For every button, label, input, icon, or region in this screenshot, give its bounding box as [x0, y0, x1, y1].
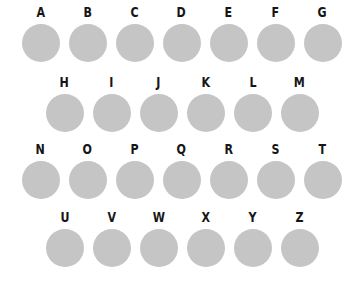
- circle-label-r: R: [224, 143, 232, 156]
- circle-label-s: S: [272, 143, 280, 156]
- circle-shape-j[interactable]: [140, 94, 178, 132]
- circle-shape-r[interactable]: [210, 161, 248, 199]
- circle-label-g: G: [318, 6, 327, 19]
- circle-label-a: A: [36, 6, 44, 19]
- circle-shape-b[interactable]: [69, 24, 107, 62]
- circle-shape-x[interactable]: [187, 229, 225, 267]
- labeled-circle-a[interactable]: A: [17, 6, 64, 62]
- labeled-circle-o[interactable]: O: [64, 143, 111, 199]
- circle-shape-z[interactable]: [281, 229, 319, 267]
- labeled-circle-v[interactable]: V: [88, 211, 135, 267]
- circle-shape-e[interactable]: [210, 24, 248, 62]
- circle-label-n: N: [36, 143, 45, 156]
- labeled-circle-h[interactable]: H: [41, 76, 88, 132]
- circle-shape-a[interactable]: [22, 24, 60, 62]
- circle-shape-p[interactable]: [116, 161, 154, 199]
- circle-label-p: P: [131, 143, 139, 156]
- circle-label-u: U: [60, 211, 69, 224]
- labeled-circle-t[interactable]: T: [299, 143, 346, 199]
- circle-shape-k[interactable]: [187, 94, 225, 132]
- circle-label-j: J: [157, 76, 161, 89]
- labeled-circle-d[interactable]: D: [158, 6, 205, 62]
- labeled-circle-k[interactable]: K: [182, 76, 229, 132]
- circle-shape-t[interactable]: [304, 161, 342, 199]
- circle-label-e: E: [225, 6, 232, 19]
- circle-label-f: F: [272, 6, 279, 19]
- circle-label-y: Y: [249, 211, 257, 224]
- circle-label-q: Q: [177, 143, 186, 156]
- circle-label-k: K: [201, 76, 209, 89]
- labeled-circle-i[interactable]: I: [88, 76, 135, 132]
- labeled-circle-x[interactable]: X: [182, 211, 229, 267]
- circle-label-l: L: [249, 76, 256, 89]
- circle-shape-v[interactable]: [93, 229, 131, 267]
- labeled-circle-n[interactable]: N: [17, 143, 64, 199]
- circle-shape-h[interactable]: [46, 94, 84, 132]
- circle-label-d: D: [177, 6, 186, 19]
- circle-shape-n[interactable]: [22, 161, 60, 199]
- labeled-circle-b[interactable]: B: [64, 6, 111, 62]
- circle-shape-c[interactable]: [116, 24, 154, 62]
- circle-shape-w[interactable]: [140, 229, 178, 267]
- labeled-circle-y[interactable]: Y: [229, 211, 276, 267]
- circle-label-x: X: [201, 211, 209, 224]
- alphabet-circle-board: A B C D E F G H: [0, 0, 361, 285]
- labeled-circle-m[interactable]: M: [276, 76, 323, 132]
- circle-label-b: B: [83, 6, 91, 19]
- circle-shape-m[interactable]: [281, 94, 319, 132]
- circle-shape-o[interactable]: [69, 161, 107, 199]
- circle-label-z: Z: [296, 211, 304, 224]
- labeled-circle-f[interactable]: F: [252, 6, 299, 62]
- labeled-circle-p[interactable]: P: [111, 143, 158, 199]
- labeled-circle-u[interactable]: U: [41, 211, 88, 267]
- labeled-circle-g[interactable]: G: [299, 6, 346, 62]
- circle-shape-l[interactable]: [234, 94, 272, 132]
- circle-shape-u[interactable]: [46, 229, 84, 267]
- circle-shape-s[interactable]: [257, 161, 295, 199]
- circle-row-4: U V W X Y Z: [41, 211, 323, 267]
- circle-label-h: H: [60, 76, 69, 89]
- circle-label-c: C: [131, 6, 139, 19]
- circle-label-o: O: [83, 143, 92, 156]
- circle-shape-y[interactable]: [234, 229, 272, 267]
- circle-label-t: T: [319, 143, 326, 156]
- labeled-circle-w[interactable]: W: [135, 211, 182, 267]
- circle-row-2: H I J K L M: [41, 76, 323, 132]
- circle-shape-d[interactable]: [163, 24, 201, 62]
- circle-label-m: M: [294, 76, 305, 89]
- circle-label-w: W: [153, 211, 165, 224]
- labeled-circle-e[interactable]: E: [205, 6, 252, 62]
- labeled-circle-l[interactable]: L: [229, 76, 276, 132]
- circle-row-1: A B C D E F G: [17, 6, 346, 62]
- circle-shape-q[interactable]: [163, 161, 201, 199]
- labeled-circle-q[interactable]: Q: [158, 143, 205, 199]
- labeled-circle-c[interactable]: C: [111, 6, 158, 62]
- labeled-circle-r[interactable]: R: [205, 143, 252, 199]
- labeled-circle-s[interactable]: S: [252, 143, 299, 199]
- circle-shape-g[interactable]: [304, 24, 342, 62]
- circle-row-3: N O P Q R S T: [17, 143, 346, 199]
- circle-shape-f[interactable]: [257, 24, 295, 62]
- circle-label-v: V: [107, 211, 115, 224]
- labeled-circle-j[interactable]: J: [135, 76, 182, 132]
- labeled-circle-z[interactable]: Z: [276, 211, 323, 267]
- circle-label-i: I: [110, 76, 114, 89]
- circle-shape-i[interactable]: [93, 94, 131, 132]
